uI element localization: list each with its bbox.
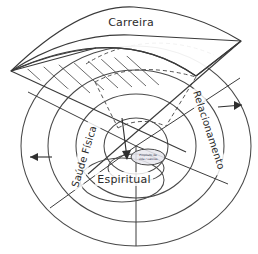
arrow-right-relacionamento: [218, 101, 242, 110]
core-purpose-group: Propósito de vida / valores: [131, 149, 165, 165]
sector-label-carreira: Carreira: [108, 16, 154, 29]
sector-label-carreira-group: Carreira: [104, 14, 158, 29]
core-label-line-2: vida / valores: [139, 157, 158, 161]
wheel-svg-canvas: Propósito de vida / valores Carreira Rel…: [0, 0, 258, 254]
sector-label-espiritual: Espiritual: [97, 173, 150, 186]
spoke-upper-left: [28, 92, 136, 146]
sector-label-espiritual-group: Espiritual: [95, 172, 153, 186]
sector-label-relacionamento-group: Relacionamento: [188, 86, 229, 176]
wheel-of-life-diagram: Propósito de vida / valores Carreira Rel…: [0, 0, 258, 254]
